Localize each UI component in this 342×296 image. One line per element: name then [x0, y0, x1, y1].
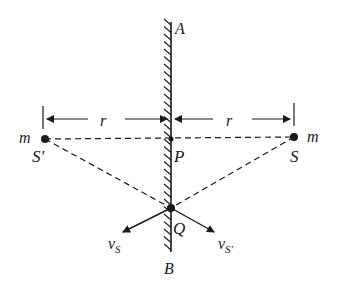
- image-point: [41, 135, 49, 143]
- source-mass-label: m: [307, 128, 319, 145]
- velocity-arrow-source: [123, 208, 171, 232]
- foot-label: P: [173, 147, 184, 166]
- foot-point: [169, 137, 174, 142]
- dashed-lines: [45, 137, 294, 208]
- intersection-label: Q: [173, 219, 185, 238]
- mirror-bottom-label: B: [164, 260, 174, 277]
- points: [41, 133, 298, 212]
- velocity-arrows: [123, 208, 214, 232]
- image-mass-label: m: [19, 129, 31, 146]
- source-point: [290, 133, 298, 141]
- distance-markers: [43, 103, 294, 129]
- plane-mirror: [164, 19, 171, 252]
- source-label: S: [290, 147, 299, 166]
- velocity-label-source: vS: [108, 235, 121, 255]
- distance-label-right: r: [226, 112, 233, 129]
- intersection-point: [167, 204, 175, 212]
- mirror-top-label: A: [174, 20, 185, 37]
- mirror-diagram: A B r r m S' m S P Q vS vS': [0, 0, 342, 296]
- image-label: S': [32, 147, 45, 166]
- distance-label-left: r: [100, 112, 107, 129]
- velocity-label-image: vS': [218, 235, 234, 255]
